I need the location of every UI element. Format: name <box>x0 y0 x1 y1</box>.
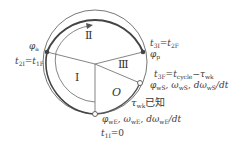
region-i-thick-arc <box>46 52 95 114</box>
phi-p-dot <box>141 50 146 55</box>
region-o-label: O <box>112 86 121 99</box>
we-state-label: φwE, ωwE, dωwE/dt <box>102 114 181 127</box>
tau-wk-known-label: τwk已知 <box>131 98 165 111</box>
t1i-zero-label: t1I=0 <box>101 128 124 141</box>
phi-a-dot <box>45 50 50 55</box>
t2i-eq-t1f-label: t2I=t1F <box>15 56 44 69</box>
phi-p-label: φp <box>150 49 160 62</box>
region-iii-label: Ⅲ <box>118 58 129 71</box>
radius-phi-a <box>47 52 95 64</box>
ws-state-label: φwS, ωwS, dωwS/dt <box>150 80 228 93</box>
t3f-open-dot <box>138 81 143 86</box>
t1i-open-dot <box>93 112 98 117</box>
region-i-label: Ⅰ <box>75 71 79 84</box>
region-ii-thick-arc <box>47 20 143 52</box>
region-ii-label: Ⅱ <box>85 29 92 42</box>
phi-a-label: φa <box>29 41 39 54</box>
